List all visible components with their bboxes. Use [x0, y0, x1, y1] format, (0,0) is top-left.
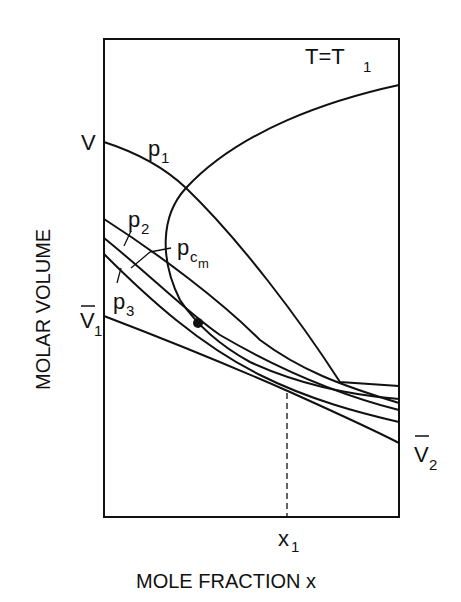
- isobar-pcm: [104, 238, 399, 410]
- pcm-label: p: [177, 235, 189, 260]
- temperature-label: T=T: [305, 44, 345, 69]
- pcm-subscript: c: [190, 248, 198, 265]
- pcm-leader-a: [150, 248, 171, 252]
- y-axis-label: MOLAR VOLUME: [32, 229, 54, 390]
- p2-label: p: [128, 207, 140, 232]
- v-label: V: [81, 130, 96, 155]
- p3-label: p: [113, 289, 125, 314]
- temperature-subscript: 1: [363, 58, 371, 75]
- p3-subscript: 3: [126, 302, 134, 319]
- x1-subscript: 1: [291, 538, 299, 555]
- phase-diagram: T=T 1 V V 1 V 2 p 1 p 2 p c m p 3 x 1 MO…: [0, 0, 461, 602]
- v2-subscript: 2: [429, 456, 437, 473]
- v2-label: V: [414, 442, 429, 467]
- p3-leader: [117, 268, 121, 283]
- p1-label: p: [148, 136, 160, 161]
- plot-frame: [104, 39, 399, 517]
- x-axis-label: MOLE FRACTION x: [136, 570, 316, 592]
- critical-point: [193, 318, 203, 328]
- pcm-leader-b: [131, 252, 150, 268]
- isobar-p1: [104, 142, 399, 386]
- pcm-subsubscript: m: [198, 256, 209, 271]
- envelope-curve: [166, 85, 399, 399]
- x1-label: x: [278, 526, 289, 551]
- v1-label: V: [80, 308, 95, 333]
- ideal-line-v1-v2: [104, 316, 399, 443]
- v1-subscript: 1: [94, 322, 102, 339]
- p2-subscript: 2: [141, 220, 149, 237]
- p1-subscript: 1: [161, 149, 169, 166]
